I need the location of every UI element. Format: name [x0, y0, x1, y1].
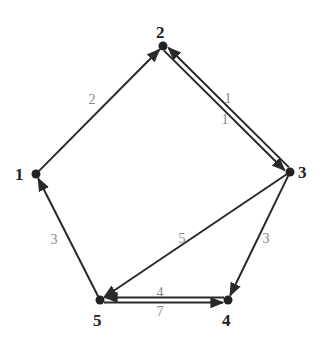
graph-diagram: 21153473 12345 — [0, 0, 331, 347]
node-4 — [224, 296, 233, 305]
node-label-2: 2 — [156, 23, 165, 42]
node-3 — [286, 168, 295, 177]
edge-1-to-2 — [39, 50, 160, 172]
node-label-4: 4 — [222, 311, 231, 330]
edge-weight-label: 3 — [263, 231, 270, 246]
edge-weight-label: 1 — [222, 112, 229, 127]
node-1 — [32, 170, 41, 179]
edge-weight-label: 2 — [89, 92, 96, 107]
node-label-3: 3 — [298, 163, 307, 182]
edge-3-to-2 — [168, 48, 289, 168]
edge-weight-label: 1 — [225, 91, 232, 106]
edge-weight-label: 7 — [157, 304, 164, 319]
node-label-5: 5 — [93, 311, 102, 330]
edge-weight-label: 3 — [51, 232, 58, 247]
node-label-1: 1 — [15, 165, 24, 184]
edge-weight-label: 4 — [157, 285, 164, 300]
edge-2-to-3 — [164, 51, 285, 171]
edge-weight-label: 5 — [179, 231, 186, 246]
node-2 — [159, 42, 168, 51]
node-5 — [96, 296, 105, 305]
edge-5-to-1 — [38, 178, 98, 296]
